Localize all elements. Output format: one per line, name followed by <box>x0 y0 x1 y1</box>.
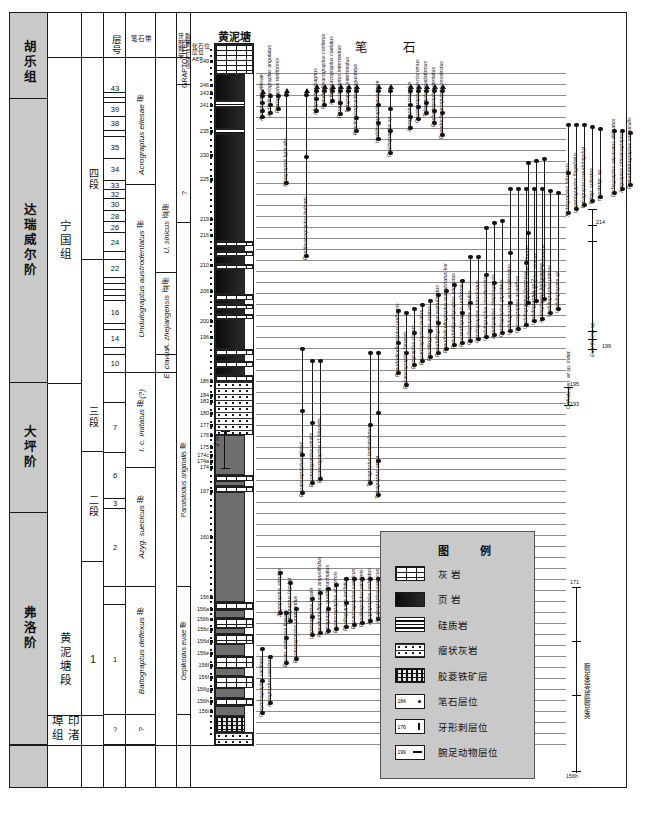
horizon-dot <box>210 601 212 603</box>
legend-swatch-num-bar: 199 <box>395 745 425 760</box>
footer-divider <box>10 745 254 746</box>
taxon-label-33: Cardiograptus crotacicious <box>474 280 480 343</box>
horizon-dot <box>210 571 212 573</box>
depth-tick-label-18: 176 <box>192 432 209 438</box>
lithology-nodular-23 <box>215 381 253 435</box>
horizon-dot <box>210 67 212 69</box>
taxon-occurrence-dot-37-1 <box>508 251 512 255</box>
lithology-column <box>214 43 254 745</box>
horizon-dot <box>210 91 212 93</box>
taxon-label-4: Proclimacograptus hulmeri <box>302 197 308 260</box>
taxon-label-13: Acrograptus rozgatus <box>406 82 412 132</box>
horizon-dot <box>210 349 212 351</box>
depth-tick-label-8: 216 <box>192 232 209 238</box>
depth-tick-label-11: 200 <box>192 318 209 324</box>
lithology-shale-17 <box>215 319 245 349</box>
legend-swatch-num-dot: 184 <box>395 694 425 709</box>
horizon-dot <box>210 181 212 183</box>
horizon-dot <box>210 679 212 681</box>
graptolite-zone-label: I. c. imitatus 带(?) <box>136 389 147 452</box>
depth-tick-label-4: 235 <box>192 128 209 134</box>
legend-swatch-num-tick: 176 <box>395 719 425 734</box>
bed-cell-24: 10 <box>104 355 126 373</box>
gridline <box>256 260 566 261</box>
horizon-dot <box>210 625 212 627</box>
horizon-dot <box>210 193 212 195</box>
depth-tick-label-29: 156d <box>192 638 209 644</box>
taxon-occurrence-dot-4-0 <box>304 93 308 97</box>
conodont-zone-label: GRAPTOLITES <box>181 39 188 88</box>
graptolite-zone-label: Baltograptus deflexus 带 <box>136 607 147 694</box>
member-label: 1 <box>88 654 99 666</box>
graptolite-zone-label: Acrograptus ellesae 带 <box>136 94 147 175</box>
subzone-column <box>156 13 177 787</box>
conodont-zone-cell-0: GRAPTOLITES <box>177 43 191 85</box>
depth-tick-label-15: 183 <box>192 398 209 404</box>
taxon-label-65: Pendeograptus pendens <box>358 569 364 627</box>
legend-item-label: 硅质岩 <box>438 618 468 632</box>
formation-label: 黄泥塘段 <box>57 632 73 688</box>
taxon-label-6: Pseudoclimacograptus conferus <box>320 34 326 109</box>
brachiopod-depth-label-4: 171 <box>570 579 579 585</box>
horizon-dot <box>210 463 212 465</box>
horizon-dot <box>210 505 212 507</box>
gridline <box>256 183 566 184</box>
taxon-occurrence-dot-12-0 <box>388 89 392 93</box>
formation-divider <box>48 383 82 384</box>
horizon-dot <box>210 457 212 459</box>
header-bed-number: 层号 <box>106 35 126 57</box>
depth-tick-label-2: 243 <box>192 90 209 96</box>
legend-tick-marker <box>418 723 420 730</box>
legend-bar-marker <box>413 751 422 753</box>
lithology-limestone-33 <box>215 634 253 644</box>
legend-swatch-shale <box>395 592 425 607</box>
taxon-occurrence-dot-34-0 <box>484 226 488 230</box>
horizon-dot <box>210 655 212 657</box>
gridline <box>256 150 566 151</box>
taxon-label-46: Glossograptus fimbriatus <box>540 244 546 303</box>
horizon-dot <box>210 289 212 291</box>
horizon-dot <box>210 439 212 441</box>
bed-cell-25 <box>104 373 126 403</box>
depth-tick-label-5: 230 <box>192 152 209 158</box>
horizon-dot <box>210 139 212 141</box>
horizon-dot <box>210 697 212 699</box>
horizon-dot <box>210 169 212 171</box>
conodont-zone-label: ? <box>181 191 188 195</box>
horizon-dot <box>210 547 212 549</box>
taxon-occurrence-dot-19-0 <box>310 359 314 363</box>
horizon-dot <box>210 661 212 663</box>
taxon-occurrence-dot-25-0 <box>412 307 416 311</box>
horizon-dot <box>210 391 212 393</box>
depth-tick-label-28: 156c <box>192 626 209 632</box>
graptolite-zone-label: Azyg. suecicus 带 <box>136 495 147 559</box>
legend-item-label: 笔石层位 <box>438 694 478 708</box>
horizon-dot <box>210 277 212 279</box>
bed-cell-6: 35 <box>104 137 126 159</box>
bed-cell-11: 28 <box>104 211 126 222</box>
taxon-occurrence-dot-20-0 <box>318 359 322 363</box>
taxon-occurrence-dot-38-0 <box>516 187 520 191</box>
lithology-shale-5 <box>215 134 245 241</box>
brachiopod-depth-label-2: 195 <box>570 381 579 387</box>
lithology-nodular-42 <box>215 732 253 745</box>
member-label: 三段 <box>86 406 101 428</box>
horizon-dot <box>210 367 212 369</box>
taxon-label-55: Corymbograptus vacillans <box>258 656 264 717</box>
legend-box: 图 例 灰 岩页 岩硅质岩瘤状灰岩胶菱铁矿层184笔石层位176牙形刺层位199… <box>380 531 535 779</box>
subzone-cell-2: E. clavus <box>156 355 177 373</box>
horizon-dot <box>210 259 212 261</box>
graptolite-zone-cell-5: ? <box>126 715 156 745</box>
stage-label: 达瑞威尔阶 <box>20 203 39 278</box>
taxon-label-25: Eriograptus clavus <box>410 325 416 369</box>
graptolite-zone-cell-2: I. c. imitatus 带(?) <box>126 373 156 468</box>
legend-dot-marker <box>418 700 421 703</box>
graptolite-zone-cell-1: Undulograptus austrodentatus 带 <box>126 185 156 373</box>
bed-cell-20: 16 <box>104 301 126 324</box>
taxon-label-29: Pseudodicellograptus manubriatus koi <box>442 263 448 353</box>
horizon-dot <box>210 355 212 357</box>
taxon-label-35: Arienigraptus zhejiangensis <box>490 274 496 339</box>
header-graptolite-zone: 笔石带 <box>126 33 156 43</box>
horizon-dot <box>210 607 212 609</box>
taxon-label-2: Pterograptus reniformis <box>274 58 280 113</box>
